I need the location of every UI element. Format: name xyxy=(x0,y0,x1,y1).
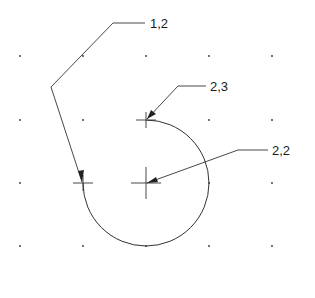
label-center-point: 2,2 xyxy=(272,143,290,158)
cad-drawing: 1,2 2,3 2,2 xyxy=(0,0,315,298)
label-start-point: 1,2 xyxy=(150,16,168,31)
leader-center-point xyxy=(147,150,268,183)
crosshair-markers xyxy=(73,112,161,199)
label-end-point: 2,3 xyxy=(210,79,228,94)
arrow-icon xyxy=(147,177,158,183)
leader-start-point xyxy=(51,23,145,182)
